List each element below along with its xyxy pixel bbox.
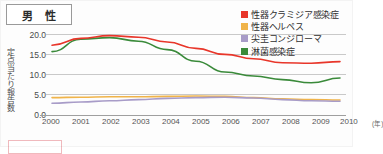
legend-item-gonorrhea: 淋菌感染症 xyxy=(241,45,353,57)
legend-item-chlamydia: 性器クラミジア感染症 xyxy=(241,8,353,20)
legend-item-condyloma: 尖圭コンジローマ xyxy=(241,33,353,45)
x-tick-6: 2006 xyxy=(222,117,240,126)
x-tick-7: 2007 xyxy=(252,117,270,126)
x-axis-tick-labels: 2000 2001 2002 2003 2004 2005 2006 2007 … xyxy=(40,117,353,131)
x-tick-5: 2005 xyxy=(192,117,210,126)
legend-label-chlamydia: 性器クラミジア感染症 xyxy=(251,8,339,21)
legend-swatch-condyloma xyxy=(241,35,248,42)
legend-label-condyloma: 尖圭コンジローマ xyxy=(251,32,321,45)
x-tick-9: 2009 xyxy=(312,117,330,126)
x-tick-8: 2008 xyxy=(282,117,300,126)
y-tick-0: 20.0 xyxy=(16,30,46,40)
x-axis-unit: (年) xyxy=(372,118,383,128)
x-tick-0: 2000 xyxy=(42,117,60,126)
bottom-left-box xyxy=(8,140,62,154)
legend-swatch-herpes xyxy=(241,23,248,30)
x-axis-line xyxy=(40,115,346,116)
y-tick-3: 5.0 xyxy=(16,90,46,100)
x-tick-2: 2002 xyxy=(102,117,120,126)
legend-swatch-gonorrhea xyxy=(241,48,248,55)
legend-label-herpes: 性器ヘルペス xyxy=(251,20,304,33)
legend-item-herpes: 性器ヘルペス xyxy=(241,20,353,32)
x-tick-1: 2001 xyxy=(72,117,90,126)
legend-label-gonorrhea: 淋菌感染症 xyxy=(251,45,295,58)
y-tick-1: 15.0 xyxy=(16,50,46,60)
series-line-condyloma xyxy=(52,97,340,103)
legend: 性器クラミジア感染症 性器ヘルペス 尖圭コンジローマ 淋菌感染症 xyxy=(241,8,353,58)
x-tick-10: 2010 xyxy=(340,117,358,126)
x-tick-4: 2004 xyxy=(162,117,180,126)
legend-swatch-chlamydia xyxy=(241,11,248,18)
x-tick-3: 2003 xyxy=(132,117,150,126)
y-tick-2: 10.0 xyxy=(16,70,46,80)
